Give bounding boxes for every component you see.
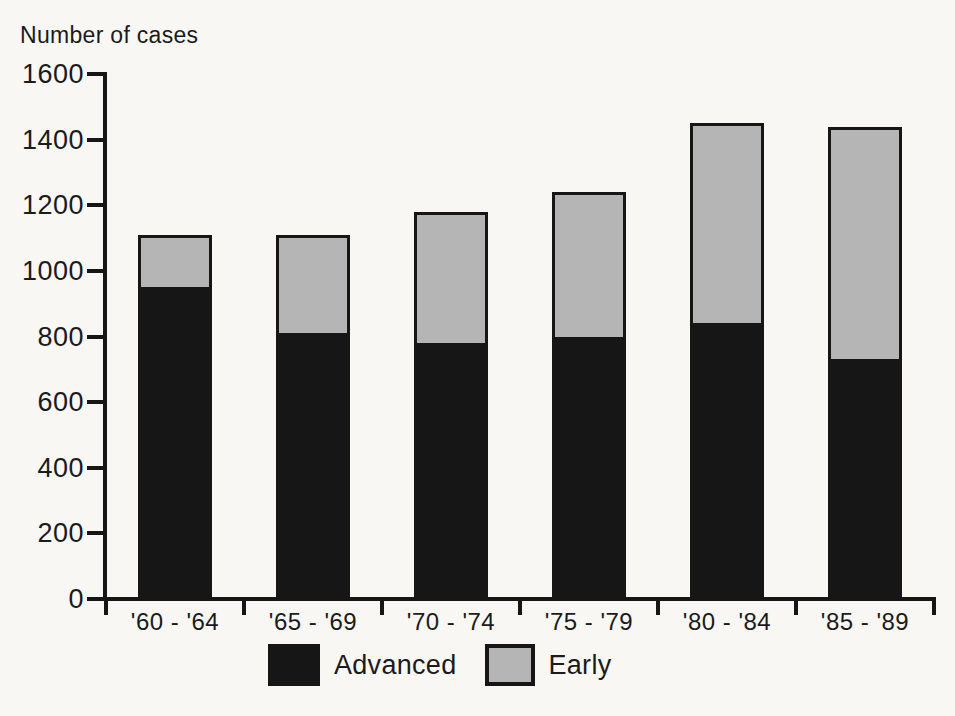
y-axis-tick (87, 466, 103, 470)
y-axis-tick (87, 400, 103, 404)
bar (552, 192, 626, 601)
x-axis-line (87, 597, 936, 601)
bar (828, 127, 902, 602)
legend-item-advanced: Advanced (268, 644, 457, 686)
legend: AdvancedEarly (268, 644, 612, 686)
y-axis-tick (87, 138, 103, 142)
bar-segment-early (276, 235, 350, 333)
bar (690, 123, 764, 601)
plot-area: 02004006008001000120014001600'60 - '64'6… (0, 0, 955, 716)
legend-label: Advanced (334, 644, 457, 686)
y-tick-label: 1400 (0, 124, 84, 156)
bar-segment-early (138, 235, 212, 288)
y-tick-label: 400 (0, 452, 84, 484)
y-axis-tick (87, 335, 103, 339)
bar-segment-early (690, 123, 764, 323)
y-tick-label: 200 (0, 517, 84, 549)
y-axis-tick (87, 597, 103, 601)
y-tick-label: 1000 (0, 255, 84, 287)
y-axis-tick (87, 269, 103, 273)
y-axis-line (103, 72, 107, 601)
y-tick-label: 1600 (0, 58, 84, 90)
y-tick-label: 800 (0, 321, 84, 353)
bar-segment-early (552, 192, 626, 336)
y-axis-tick (87, 72, 103, 76)
y-axis-tick (87, 203, 103, 207)
y-tick-label: 1200 (0, 189, 84, 221)
y-tick-label: 600 (0, 386, 84, 418)
y-axis-tick (87, 531, 103, 535)
bar-segment-early (414, 212, 488, 343)
legend-swatch-advanced (268, 644, 320, 686)
legend-swatch-early (485, 644, 535, 686)
legend-label: Early (549, 644, 612, 686)
bar-segment-early (828, 127, 902, 360)
bar (414, 212, 488, 601)
bar (138, 235, 212, 601)
x-tick-label: '85 - '89 (780, 607, 950, 637)
legend-item-early: Early (485, 644, 612, 686)
bar (276, 235, 350, 601)
y-tick-label: 0 (0, 583, 84, 615)
chart-page: Number of cases 020040060080010001200140… (0, 0, 955, 716)
